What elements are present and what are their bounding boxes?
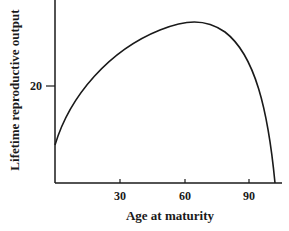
x-tick-label-60: 60 [179,189,191,203]
x-axis-label: Age at maturity [126,208,215,223]
y-axis-label: Lifetime reproductive output [7,9,22,171]
x-tick-label-90: 90 [243,189,255,203]
reproductive-output-curve [55,22,275,183]
chart: 20 30 60 90 Age at maturity Lifetime rep… [0,0,289,231]
y-tick-label-20: 20 [30,79,42,93]
x-tick-label-30: 30 [114,189,126,203]
